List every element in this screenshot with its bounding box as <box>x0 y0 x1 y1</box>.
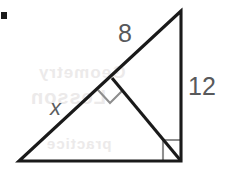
label-segment-x: x <box>50 97 61 119</box>
label-segment-8: 8 <box>118 21 132 46</box>
label-leg-12: 12 <box>188 74 216 99</box>
geometry-figure: Geometry Lesson practice 8 12 x <box>0 0 225 169</box>
altitude-segment <box>112 78 181 161</box>
outer-triangle <box>19 11 181 161</box>
right-angle-mark-altitude-foot <box>98 90 123 103</box>
